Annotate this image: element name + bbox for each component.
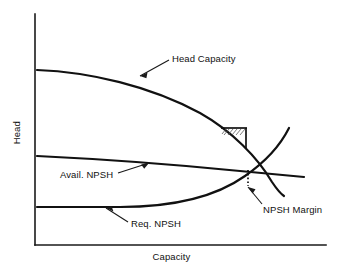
plot-canvas	[0, 0, 343, 271]
hatching	[222, 129, 245, 135]
y-axis-label: Head	[12, 108, 22, 158]
avail-npsh-leader	[118, 163, 149, 173]
x-axis-label: Capacity	[0, 252, 343, 262]
npsh-margin-label: NPSH Margin	[263, 205, 322, 215]
req-npsh-curve	[37, 128, 289, 207]
req-npsh-leader	[106, 206, 128, 222]
avail-npsh-label: Avail. NPSH	[60, 170, 113, 180]
npsh-margin-leader	[248, 187, 262, 204]
pump-curve-figure: Head Capacity Avail. NPSH Req. NPSH NPSH…	[0, 0, 343, 271]
head-capacity-leader	[140, 60, 169, 78]
req-npsh-label: Req. NPSH	[131, 219, 181, 229]
head-capacity-label: Head Capacity	[172, 54, 236, 64]
